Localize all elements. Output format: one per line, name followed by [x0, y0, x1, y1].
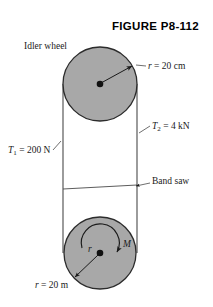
- radius-inner-label: r: [88, 245, 92, 255]
- radius-bottom-value: = 20 m: [39, 280, 68, 290]
- tension-right-label: T2 = 4 kN: [152, 122, 190, 132]
- tension-left-subscript: 1: [13, 149, 17, 157]
- tension-right-subscript: 2: [157, 125, 161, 133]
- tension-right-value: = 4 kN: [161, 121, 190, 131]
- radius-bottom-label: r = 20 m: [35, 281, 68, 291]
- idler-wheel-label: Idler wheel: [24, 42, 67, 52]
- tension-left-leader: [53, 141, 61, 150]
- radius-top-leader: [136, 65, 146, 66]
- figure-container: FIGURE P8-112 Idler wheel r = 20 cm T2 =…: [0, 0, 213, 307]
- tension-left-label: T1 = 200 N: [8, 146, 50, 156]
- figure-title: FIGURE P8-112: [112, 21, 199, 33]
- radius-top-label: r = 20 cm: [148, 62, 185, 72]
- band-saw-line: [63, 185, 137, 189]
- idler-wheel-hub: [97, 81, 104, 88]
- radius-top-value: = 20 cm: [152, 61, 186, 71]
- tension-left-value: = 200 N: [17, 145, 51, 155]
- band-saw-label: Band saw: [152, 177, 189, 187]
- band-saw-leader: [136, 183, 150, 186]
- tension-right-leader: [139, 126, 150, 133]
- moment-label: M: [123, 240, 131, 250]
